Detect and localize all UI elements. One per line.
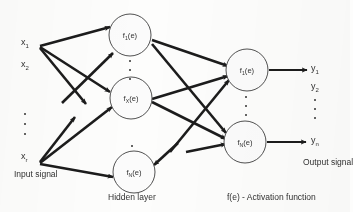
output-label-y2: y2 xyxy=(311,82,319,93)
output-node-1-arg: (e) xyxy=(245,66,255,75)
input-label-x2: x2 xyxy=(21,60,29,71)
edge-x1-hx xyxy=(40,47,110,92)
output-node-n-arg: (e) xyxy=(243,138,253,147)
output-signal-caption: Output signal xyxy=(303,158,353,167)
hidden-node-n-arg: (e) xyxy=(132,168,142,177)
hidden-node-1[interactable]: f1(e) xyxy=(109,14,151,56)
edge-x1-h1 xyxy=(40,27,110,46)
activation-function-note: f(e) - Activation function xyxy=(227,193,316,202)
hidden-dot-icon xyxy=(131,145,133,147)
input-label-xr: xr xyxy=(21,152,28,163)
hidden-node-n[interactable]: fN(e) xyxy=(113,151,155,193)
input-signal-caption: Input signal xyxy=(14,170,57,179)
edge-extra-to-o1 xyxy=(154,143,178,165)
edges-output-arrows xyxy=(267,70,307,142)
edge-lower-to-on xyxy=(186,144,226,152)
output-label-yn: yn xyxy=(311,136,319,147)
edges-hidden-to-output xyxy=(152,40,229,165)
edge-x2-h1 xyxy=(62,53,113,103)
edge-x1-down xyxy=(40,48,86,104)
input-label-x1: x1 xyxy=(21,38,29,49)
hidden-node-1-arg: (e) xyxy=(128,31,138,40)
output-node-1[interactable]: f1(e) xyxy=(226,49,268,91)
hidden-layer-caption: Hidden layer xyxy=(108,193,156,202)
output-ellipsis-icon xyxy=(245,96,247,116)
edges-input-to-hidden xyxy=(40,27,113,177)
hidden-ellipsis-icon xyxy=(129,60,131,80)
edge-xr-hx xyxy=(40,107,112,163)
edge-h1-o1 xyxy=(152,40,228,66)
output-label-y1: y1 xyxy=(311,64,319,75)
hidden-node-x-arg: (e) xyxy=(129,94,139,103)
hidden-node-x[interactable]: fX(e) xyxy=(110,77,152,119)
output-node-n[interactable]: fN(e) xyxy=(224,121,266,163)
output-label-ellipsis-icon xyxy=(314,99,316,119)
input-ellipsis-icon xyxy=(24,113,26,135)
